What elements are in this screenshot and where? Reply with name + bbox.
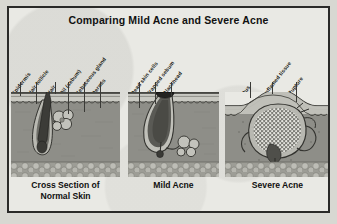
caption-mild-acne: Mild Acne xyxy=(128,180,219,191)
leader-line-dead-skin-cells xyxy=(139,82,140,108)
caption-severe-acne: Severe Acne xyxy=(225,180,330,191)
panel-normal-labels: Epidermis Hair follicle Hair Oil (sebum)… xyxy=(11,32,120,92)
leader-line-hair xyxy=(55,82,56,94)
leader-line-trapped-sebum xyxy=(155,82,156,104)
leader-line-rupture xyxy=(296,82,297,102)
leader-line-oil-sebum xyxy=(68,82,69,114)
illustration-normal-skin xyxy=(11,92,120,177)
caption-normal-line2: Normal Skin xyxy=(11,191,120,202)
caption-normal-line1: Cross Section of xyxy=(11,180,120,191)
figure-title: Comparing Mild Acne and Severe Acne xyxy=(9,14,328,26)
leader-line-pus xyxy=(250,82,251,98)
leader-line-epidermis xyxy=(20,82,21,96)
illustration-mild-acne xyxy=(128,92,219,177)
panel-severe-acne: Pus Inflamed tissue Rupture xyxy=(225,32,330,92)
caption-mild-line1: Mild Acne xyxy=(128,180,219,191)
leader-line-sebaceous-gland xyxy=(84,82,85,112)
figure-container: Comparing Mild Acne and Severe Acne Epid… xyxy=(7,6,330,213)
illustration-severe-acne xyxy=(225,92,330,177)
panel-severe-labels: Pus Inflamed tissue Rupture xyxy=(225,32,330,92)
leader-line-dermis xyxy=(100,82,101,108)
leader-line-hair-follicle xyxy=(36,82,37,104)
leader-line-blackhead xyxy=(171,82,172,96)
panel-mild-acne: Dead skin cells Trapped sebum Blackhead xyxy=(128,32,219,92)
caption-severe-line1: Severe Acne xyxy=(225,180,330,191)
caption-normal-skin: Cross Section of Normal Skin xyxy=(11,180,120,202)
leader-line-inflamed-tissue xyxy=(272,82,273,94)
panel-normal-skin: Epidermis Hair follicle Hair Oil (sebum)… xyxy=(11,32,120,92)
panel-mild-labels: Dead skin cells Trapped sebum Blackhead xyxy=(128,32,219,92)
